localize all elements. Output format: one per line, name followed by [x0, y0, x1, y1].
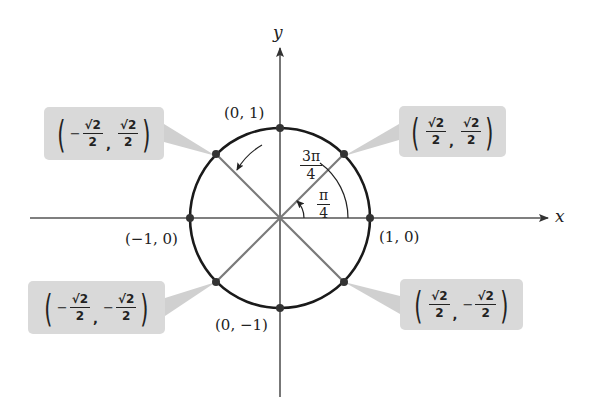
point-0-1-label: (0, 1) [224, 106, 264, 121]
x-axis-label: x [555, 208, 565, 225]
point-0-neg1-label: (0, −1) [215, 318, 268, 333]
unit-circle-diagram: y x (0, 1) (−1, 0) (1, 0) (0, −1) 3π 4 π… [0, 0, 593, 414]
coordinate-box-q4: ( √22 , − √22 ) [400, 279, 523, 330]
y-axis-label: y [273, 24, 283, 41]
point-1-0-label: (1, 0) [379, 230, 419, 245]
coordinate-box-q2: ( − √22 , √22 ) [44, 107, 164, 160]
angle-label-pi-over-4: π 4 [317, 188, 330, 220]
angle-arc-3pi-over-4-top [237, 145, 262, 170]
coordinate-box-q1: ( √22 , √22 ) [399, 106, 506, 157]
angle-arc-pi-over-4 [297, 201, 304, 218]
angle-label-3pi-over-4: 3π 4 [300, 149, 322, 181]
diagram-canvas [0, 0, 593, 414]
coordinate-box-q3: ( − √22 , − √22 ) [28, 281, 165, 334]
point-neg1-0-label: (−1, 0) [125, 232, 178, 247]
